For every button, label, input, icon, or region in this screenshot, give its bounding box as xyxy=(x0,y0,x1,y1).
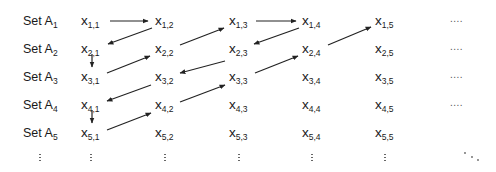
arrow-1-4-to-2-3 xyxy=(254,28,299,44)
arrow-1-2-to-2-1 xyxy=(108,28,152,44)
arrow-2-3-to-3-2 xyxy=(180,61,225,73)
arrow-5-1-to-4-2 xyxy=(107,113,151,130)
diagonal-enumeration-diagram: Set A1 Set A2 Set A3 Set A4 Set A5 x1,1x… xyxy=(0,0,496,172)
arrow-3-2-to-4-1 xyxy=(107,85,151,101)
arrow-2-2-to-1-3 xyxy=(180,28,224,45)
arrow-3-1-to-2-2 xyxy=(107,56,150,73)
arrow-4-2-to-3-3 xyxy=(180,85,225,102)
arrow-2-4-to-1-5 xyxy=(328,27,371,45)
enumeration-arrows xyxy=(0,0,496,172)
arrow-3-3-to-2-4 xyxy=(255,56,298,73)
